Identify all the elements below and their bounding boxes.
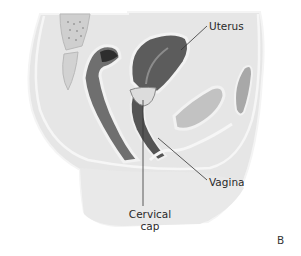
vagina-label: Vagina	[209, 176, 244, 188]
anatomy-diagram: Uterus Vagina Cervical cap B	[0, 0, 301, 256]
uterus-label: Uterus	[209, 20, 244, 32]
panel-letter: B	[277, 234, 284, 246]
cervical-cap-label-line2: cap	[127, 220, 173, 232]
cervical-cap-label: Cervical cap	[127, 208, 173, 232]
cervical-cap-label-line1: Cervical	[127, 208, 173, 220]
